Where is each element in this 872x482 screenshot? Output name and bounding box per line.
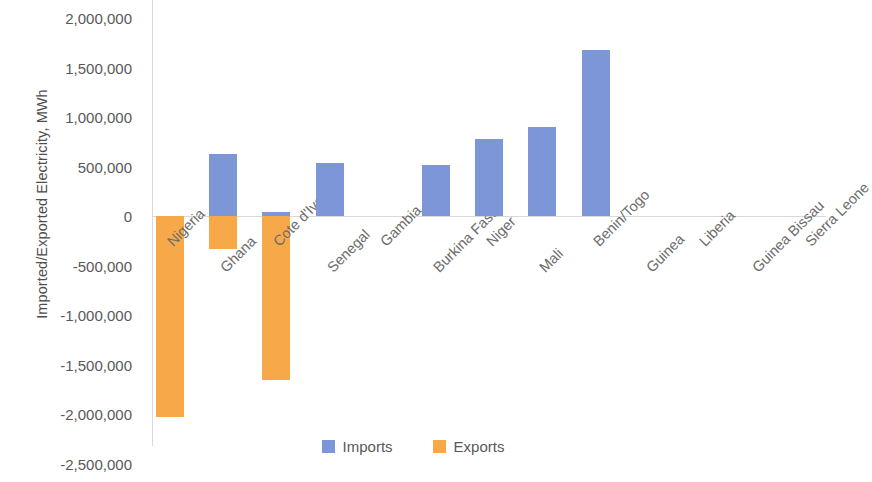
y-axis-tick-label: -1,000,000	[60, 307, 132, 324]
chart-legend: ImportsExports	[0, 438, 826, 455]
bar-imports	[316, 163, 344, 216]
x-axis-category-label: Liberia	[696, 207, 738, 249]
y-axis-tick-label: -2,500,000	[60, 455, 132, 472]
legend-item[interactable]: Exports	[433, 438, 505, 455]
bar-exports	[156, 216, 184, 417]
y-axis-line	[152, 0, 153, 446]
y-axis-tick-labels: 2,000,0001,500,0001,000,000500,0000-500,…	[0, 0, 150, 482]
plot-area: NigeriaGhanaCote d'IvoireSenegalGambiaBu…	[152, 0, 826, 482]
x-axis-category-label: Senegal	[324, 226, 373, 275]
y-axis-tick-label: -500,000	[73, 257, 132, 274]
y-axis-tick-label: 1,500,000	[65, 59, 132, 76]
y-axis-tick-label: 0	[124, 208, 132, 225]
bar-exports	[209, 216, 237, 249]
legend-swatch-icon	[322, 440, 335, 453]
y-axis-tick-label: 1,000,000	[65, 109, 132, 126]
bar-imports	[528, 127, 556, 216]
x-axis-category-label: Mali	[536, 245, 566, 275]
bar-imports	[475, 139, 503, 216]
bar-imports	[422, 165, 450, 216]
x-axis-category-label: Gambia	[377, 202, 424, 249]
y-axis-tick-label: -2,000,000	[60, 406, 132, 423]
y-axis-tick-label: 500,000	[78, 158, 132, 175]
bar-imports	[209, 154, 237, 216]
y-axis-tick-label: -1,500,000	[60, 356, 132, 373]
legend-swatch-icon	[433, 440, 446, 453]
legend-label: Exports	[454, 438, 505, 455]
legend-item[interactable]: Imports	[322, 438, 393, 455]
x-axis-category-label: Guinea	[643, 231, 687, 275]
y-axis-tick-label: 2,000,000	[65, 10, 132, 27]
legend-label: Imports	[343, 438, 393, 455]
bar-imports	[582, 50, 610, 216]
